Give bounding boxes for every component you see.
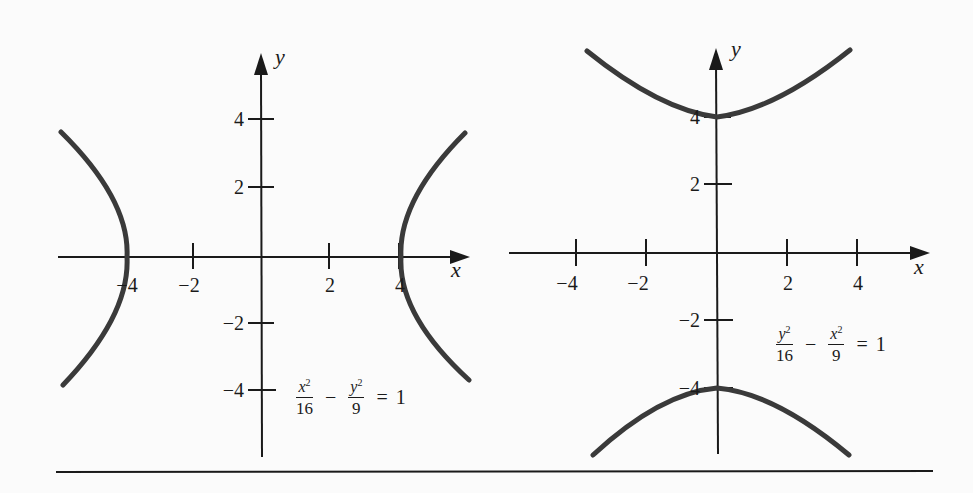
right-y-axis-arrow-icon: [709, 48, 723, 70]
bottom-rule-divider: [56, 471, 933, 472]
numerator-variable: x: [298, 378, 305, 395]
right-y-tick-label: −2: [679, 309, 700, 331]
right-equation: y2 16 − x2 9 = 1: [772, 325, 886, 364]
equals-sign: =: [856, 333, 867, 356]
exponent: 2: [786, 324, 791, 335]
left-y-axis-arrow-icon: [254, 53, 268, 75]
left-y-tick-label: −4: [223, 379, 244, 401]
left-branch-curve: [61, 132, 127, 385]
left-y-tick-label: 4: [234, 108, 244, 130]
fraction: y2 16: [776, 325, 793, 364]
minus-operator: −: [325, 386, 336, 409]
left-x-axis-label: x: [450, 257, 461, 282]
left-y-tick-label: 2: [234, 176, 244, 198]
right-x-tick-label: −4: [556, 272, 577, 294]
right-y-tick-label: −4: [679, 377, 700, 399]
equals-sign: =: [376, 386, 387, 409]
right-x-tick-label: −2: [627, 272, 648, 294]
denominator: 9: [352, 398, 361, 417]
right-y-tick-label: 4: [690, 106, 700, 128]
exponent: 2: [837, 324, 842, 335]
minus-operator: −: [805, 333, 816, 356]
left-hyperbola-plot: −4 −2 2 4 4 2 −2 −4 x y: [58, 44, 470, 457]
exponent: 2: [357, 377, 362, 388]
left-y-tick-label: −2: [223, 312, 244, 334]
denominator: 16: [776, 345, 793, 364]
fraction: y2 9: [348, 378, 364, 417]
numerator-variable: y: [778, 325, 785, 342]
right-hand-side: 1: [876, 333, 886, 356]
exponent: 2: [306, 377, 311, 388]
lower-branch-curve: [593, 388, 849, 455]
left-x-tick-label: −2: [178, 274, 199, 296]
left-x-tick-label: 2: [325, 274, 335, 296]
denominator: 9: [832, 345, 841, 364]
right-hand-side: 1: [396, 386, 406, 409]
left-y-axis: [261, 68, 262, 457]
right-x-tick-label: 4: [853, 272, 863, 294]
right-y-axis-label: y: [729, 36, 741, 61]
right-x-tick-label: 2: [783, 272, 793, 294]
fraction: x2 9: [828, 325, 844, 364]
left-x-tick-label: −4: [116, 274, 137, 296]
denominator: 16: [296, 398, 313, 417]
right-y-tick-label: 2: [690, 173, 700, 195]
figure-canvas: −4 −2 2 4 4 2 −2 −4 x y −4 −2 2 4: [0, 0, 973, 493]
fraction: x2 16: [296, 378, 313, 417]
left-x-tick-label: 4: [395, 274, 405, 296]
right-hyperbola-plot: −4 −2 2 4 4 2 −2 −4 x y: [509, 36, 930, 455]
left-y-axis-label: y: [273, 44, 285, 69]
left-equation: x2 16 − y2 9 = 1: [292, 378, 406, 417]
right-x-axis-label: x: [913, 254, 924, 279]
